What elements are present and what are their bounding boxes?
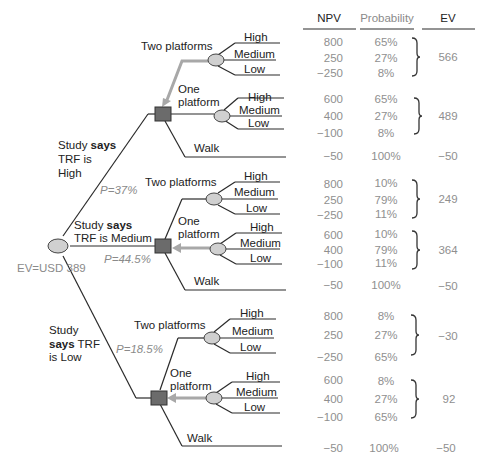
outcome-medium-label: Medium [239, 104, 280, 116]
brace-icon [414, 98, 422, 134]
option-walk-line [160, 404, 182, 446]
option-two-platforms-label: Two platforms [134, 319, 206, 331]
option-two-platforms-label: Two platforms [145, 176, 217, 188]
chance-node-two-platforms [208, 54, 224, 66]
npv-value: 400 [324, 110, 343, 122]
option-walk-line [165, 121, 185, 157]
scenario-medium-probability: P=44.5% [104, 253, 151, 265]
scenario-high-label-3: High [58, 167, 82, 179]
probability-value: 10% [374, 228, 397, 240]
probability-value: 11% [375, 257, 397, 269]
outcome-line [218, 205, 235, 214]
outcome-line [224, 98, 238, 110]
outcome-medium-label: Medium [240, 237, 281, 249]
brace-icon [412, 180, 420, 218]
outcome-low-label: Low [250, 252, 272, 264]
option-one-platform-label-1: One [178, 215, 200, 227]
probability-value: 100% [371, 279, 400, 291]
npv-value: 800 [324, 36, 343, 48]
outcome-line [214, 344, 230, 353]
chance-node-two-platforms [206, 193, 222, 205]
npv-value: 400 [324, 244, 343, 256]
decision-node-low [151, 391, 167, 405]
outcome-line [218, 182, 235, 193]
npv-value: 800 [324, 178, 343, 190]
scenario-low-label-1: Study [49, 324, 79, 336]
ev-value: −50 [436, 442, 456, 454]
brace-icon [411, 380, 419, 418]
brace-icon [412, 38, 420, 76]
npv-value: −100 [317, 258, 343, 270]
scenario-low: Study says TRF is Low P=18.5% Two platfo… [49, 307, 458, 454]
npv-value: 400 [324, 393, 343, 405]
npv-value: −250 [317, 67, 343, 79]
npv-value: −250 [317, 209, 343, 221]
outcome-high-label: High [248, 91, 272, 103]
option-walk-label: Walk [187, 432, 212, 444]
probability-value: 27% [374, 52, 397, 64]
chance-node-one-platform [214, 110, 230, 122]
probability-value: 27% [374, 329, 397, 341]
ev-value: 566 [438, 51, 457, 63]
outcome-line [216, 382, 232, 393]
brace-icon [411, 315, 419, 355]
scenario-high-label-2: TRF is [58, 153, 92, 165]
npv-value: −100 [317, 127, 343, 139]
outcome-low-label: Low [248, 117, 270, 129]
decision-node-medium [155, 239, 171, 253]
option-walk-line [165, 253, 185, 290]
outcome-line [220, 255, 236, 264]
outcome-low-label: Low [244, 401, 266, 413]
option-one-platform-label-2: platform [170, 380, 212, 392]
ev-value: 489 [438, 110, 457, 122]
decision-node-high [155, 107, 171, 121]
outcome-low-label: Low [244, 63, 266, 75]
probability-value: 65% [374, 411, 397, 423]
probability-value: 11% [375, 208, 397, 220]
outcome-medium-label: Medium [234, 48, 275, 60]
ev-value: 249 [438, 193, 457, 205]
option-one-platform-label-1: One [170, 367, 192, 379]
option-one-platform-label-2: platform [178, 96, 220, 108]
option-walk-label: Walk [194, 275, 219, 287]
outcome-low-label: Low [246, 202, 268, 214]
ev-value: −50 [438, 150, 458, 162]
decision-tree: NPV Probability EV EV=USD 389 Study says… [0, 0, 481, 468]
npv-value: −50 [323, 150, 343, 162]
chance-node-one-platform [210, 243, 226, 255]
npv-value: −50 [323, 279, 343, 291]
column-headers: NPV Probability EV [303, 12, 475, 29]
probability-value: 27% [374, 110, 397, 122]
outcome-high-label: High [244, 31, 268, 43]
outcome-high-label: High [244, 170, 268, 182]
outcome-medium-label: Medium [232, 325, 273, 337]
arrow-head-icon [167, 393, 176, 403]
root-chance-node [48, 239, 68, 253]
option-two-platforms-label: Two platforms [141, 40, 213, 52]
probability-value: 10% [374, 177, 397, 189]
probability-value: 65% [374, 36, 397, 48]
chance-node-two-platforms [204, 332, 220, 344]
ev-value: −30 [438, 330, 458, 342]
npv-value: 800 [324, 310, 343, 322]
brace-icon [412, 231, 420, 269]
scenario-high-probability: P=37% [100, 184, 137, 196]
npv-value: −50 [323, 442, 343, 454]
probability-value: 8% [378, 375, 395, 387]
ev-value: 92 [443, 393, 456, 405]
scenario-low-label-3: is Low [49, 351, 82, 363]
npv-value: 250 [324, 194, 343, 206]
option-one-platform-label-1: One [178, 83, 200, 95]
scenario-low-probability: P=18.5% [116, 343, 163, 355]
probability-value: 8% [378, 310, 395, 322]
scenario-medium-label-2: TRF is Medium [74, 232, 152, 244]
npv-value: 250 [324, 329, 343, 341]
probability-value: 65% [374, 93, 397, 105]
npv-value: 600 [324, 374, 343, 386]
probability-value: 100% [371, 150, 400, 162]
probability-header: Probability [360, 12, 414, 24]
ev-value: 364 [438, 244, 458, 256]
probability-value: 100% [369, 442, 398, 454]
outcome-line [220, 233, 236, 244]
outcome-medium-label: Medium [236, 386, 277, 398]
